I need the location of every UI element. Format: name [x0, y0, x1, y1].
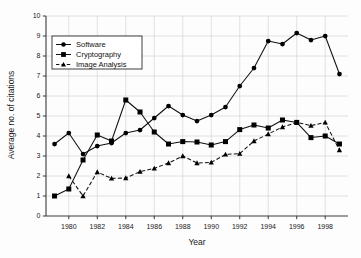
x-tick-label: 1990	[203, 223, 219, 230]
data-point-marker	[138, 128, 143, 133]
y-tick-label: 10	[33, 12, 41, 19]
y-tick-label: 3	[37, 152, 41, 159]
data-point-marker	[81, 158, 86, 163]
y-tick-label: 0	[37, 212, 41, 219]
data-point-marker	[152, 116, 157, 121]
data-point-marker	[223, 105, 228, 110]
data-point-marker	[209, 143, 214, 148]
data-point-marker	[223, 152, 228, 157]
x-tick-label: 1980	[61, 223, 77, 230]
data-point-marker	[209, 113, 214, 118]
data-point-marker	[52, 142, 57, 147]
data-point-marker	[61, 42, 66, 47]
data-point-marker	[251, 138, 256, 143]
series-image-analysis	[66, 120, 342, 198]
data-point-marker	[95, 133, 100, 138]
y-tick-label: 2	[37, 172, 41, 179]
x-tick-label: 1996	[289, 223, 305, 230]
data-point-marker	[195, 119, 200, 124]
data-point-marker	[266, 131, 271, 136]
data-point-marker	[152, 130, 157, 135]
x-tick-label: 1984	[118, 223, 134, 230]
legend-label: Cryptography	[76, 50, 121, 59]
data-point-marker	[123, 131, 128, 136]
data-point-marker	[237, 84, 242, 89]
data-point-marker	[123, 98, 128, 103]
data-point-marker	[337, 72, 342, 77]
data-point-marker	[266, 39, 271, 44]
x-tick-label: 1986	[146, 223, 162, 230]
y-tick-label: 4	[37, 132, 41, 139]
data-point-marker	[195, 140, 200, 145]
data-point-marker	[280, 42, 285, 47]
x-tick-label: 1988	[175, 223, 191, 230]
chart-legend: SoftwareCryptographyImage Analysis	[52, 36, 142, 69]
data-point-marker	[95, 169, 100, 174]
data-point-marker	[323, 34, 328, 39]
data-point-marker	[337, 147, 342, 152]
data-point-marker	[95, 144, 100, 149]
x-tick-label: 1998	[317, 223, 333, 230]
x-tick-label: 1994	[260, 223, 276, 230]
data-point-marker	[52, 194, 57, 199]
data-point-marker	[180, 113, 185, 118]
data-point-marker	[209, 160, 214, 165]
data-point-marker	[252, 66, 257, 71]
data-point-marker	[251, 123, 256, 128]
data-point-marker	[166, 104, 171, 109]
y-tick-label: 8	[37, 52, 41, 59]
y-tick-label: 1	[37, 192, 41, 199]
citations-line-chart: 1980198219841986198819901992199419961998…	[0, 0, 361, 258]
y-tick-label: 6	[37, 92, 41, 99]
y-tick-labels: 012345678910	[33, 12, 41, 219]
data-point-marker	[81, 152, 86, 157]
legend-label: Software	[76, 40, 106, 49]
x-tick-label: 1982	[89, 223, 105, 230]
y-tick-label: 9	[37, 32, 41, 39]
x-tick-label: 1992	[232, 223, 248, 230]
y-tick-label: 5	[37, 112, 41, 119]
series-line	[69, 122, 340, 196]
data-point-marker	[66, 187, 71, 192]
data-point-marker	[66, 131, 71, 136]
data-point-marker	[280, 118, 285, 123]
y-tick-label: 7	[37, 72, 41, 79]
series-cryptography	[52, 98, 342, 199]
y-axis-title: Average no. of citations	[6, 71, 16, 160]
data-point-marker	[180, 139, 185, 144]
x-axis-title: Year	[188, 237, 205, 247]
data-point-marker	[61, 52, 66, 57]
data-point-marker	[309, 38, 314, 43]
data-point-marker	[138, 110, 143, 115]
data-point-marker	[166, 142, 171, 147]
data-point-marker	[237, 127, 242, 132]
data-point-marker	[308, 135, 313, 140]
chart-figure: 1980198219841986198819901992199419961998…	[0, 0, 361, 258]
data-point-marker	[223, 139, 228, 144]
data-point-marker	[323, 134, 328, 139]
data-point-marker	[323, 120, 328, 125]
data-point-marker	[109, 139, 114, 144]
data-point-marker	[166, 160, 171, 165]
data-point-marker	[294, 31, 299, 36]
x-tick-labels: 1980198219841986198819901992199419961998	[61, 223, 333, 230]
data-point-marker	[266, 126, 271, 131]
legend-label: Image Analysis	[76, 60, 127, 69]
